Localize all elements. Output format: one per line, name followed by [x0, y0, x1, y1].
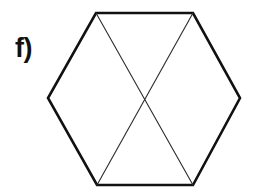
figure-canvas: f) [0, 0, 256, 193]
hexagon-diagram [0, 0, 256, 193]
